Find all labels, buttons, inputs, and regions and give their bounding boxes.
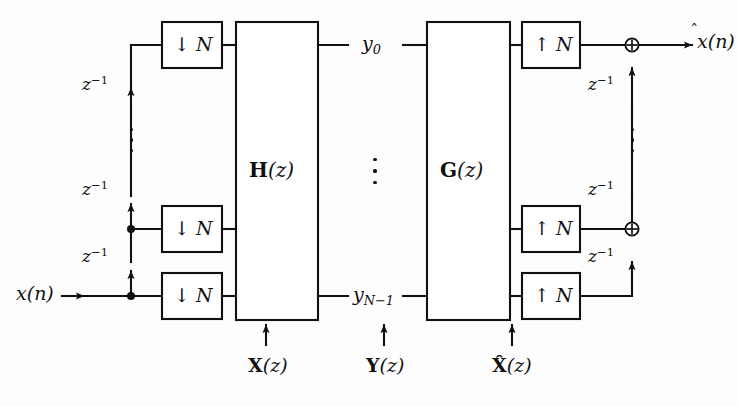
decimator-factor: N: [196, 33, 213, 55]
synthesis-block-name: G: [440, 158, 457, 182]
interpolator-symbol: ↑: [534, 33, 550, 55]
vector-name: Y: [366, 354, 380, 376]
delay-exponent: −1: [91, 73, 108, 87]
interpolator-label-mid: ↑ N: [534, 217, 573, 239]
analysis-block-name: H: [249, 158, 268, 182]
output-arg: (n): [708, 30, 735, 52]
subband-label-top: y0: [362, 34, 381, 57]
interpolator-factor: N: [556, 217, 573, 239]
vector-arg: (z): [263, 354, 288, 376]
interpolator-factor: N: [556, 33, 573, 55]
decimator-factor: N: [196, 217, 213, 239]
decimator-factor: N: [196, 284, 213, 306]
vector-arg: (z): [507, 354, 532, 376]
delay-base: z: [82, 246, 91, 266]
analysis-delay-label-1: z−1: [82, 75, 108, 93]
decimator-label-bottom: ↓ N: [174, 284, 213, 306]
subband-base: y: [362, 32, 373, 54]
vector-name: X̂: [492, 354, 507, 376]
subband-base: y: [353, 283, 364, 305]
delay-base: z: [82, 74, 91, 94]
delay-exponent: −1: [91, 245, 108, 259]
decimator-symbol: ↓: [174, 284, 190, 306]
synthesis-vector-label: X̂(z): [492, 356, 532, 375]
output-base: x: [697, 30, 708, 52]
subband-index: N−1: [364, 293, 394, 308]
analysis-delay-label-2: z−1: [82, 180, 108, 198]
delay-base: z: [82, 179, 91, 199]
analysis-delay-label-3: z−1: [82, 247, 108, 265]
decimator-label-top: ↓ N: [174, 33, 213, 55]
delay-base: z: [588, 246, 597, 266]
delay-exponent: −1: [597, 178, 614, 192]
output-signal-label: x ̂ (n): [697, 32, 735, 51]
synthesis-block-arg: (z): [457, 158, 483, 182]
synthesis-delay-label-2: z−1: [588, 180, 614, 198]
delay-base: z: [588, 179, 597, 199]
synthesis-bus-ellipsis: [630, 128, 634, 152]
input-signal-label: x(n): [16, 284, 54, 303]
filter-bank-diagram: x(n) z−1 z−1 z−1 ↓ N ↓ N ↓ N H(z) y0 yN−…: [0, 0, 737, 406]
decimator-symbol: ↓: [174, 33, 190, 55]
subband-label-bottom: yN−1: [353, 285, 394, 308]
analysis-bus-ellipsis: [129, 128, 133, 152]
interpolator-label-top: ↑ N: [534, 33, 573, 55]
decimator-label-mid: ↓ N: [174, 217, 213, 239]
subband-ellipsis: [373, 158, 377, 184]
delay-exponent: −1: [597, 245, 614, 259]
decimator-symbol: ↓: [174, 217, 190, 239]
analysis-block-label: H(z): [249, 160, 294, 180]
synthesis-delay-label-1: z−1: [588, 75, 614, 93]
vector-arg: (z): [380, 354, 405, 376]
synthesis-delay-label-3: z−1: [588, 247, 614, 265]
delay-exponent: −1: [597, 73, 614, 87]
subband-index: 0: [373, 42, 381, 57]
midband-vector-label: Y(z): [366, 356, 404, 375]
vector-name: X: [248, 354, 263, 376]
delay-exponent: −1: [91, 178, 108, 192]
synthesis-block-label: G(z): [440, 160, 483, 180]
interpolator-symbol: ↑: [534, 284, 550, 306]
interpolator-label-bottom: ↑ N: [534, 284, 573, 306]
diagram-wires: [0, 0, 737, 406]
delay-base: z: [588, 74, 597, 94]
analysis-block-arg: (z): [268, 158, 294, 182]
analysis-vector-label: X(z): [248, 356, 288, 375]
interpolator-factor: N: [556, 284, 573, 306]
interpolator-symbol: ↑: [534, 217, 550, 239]
